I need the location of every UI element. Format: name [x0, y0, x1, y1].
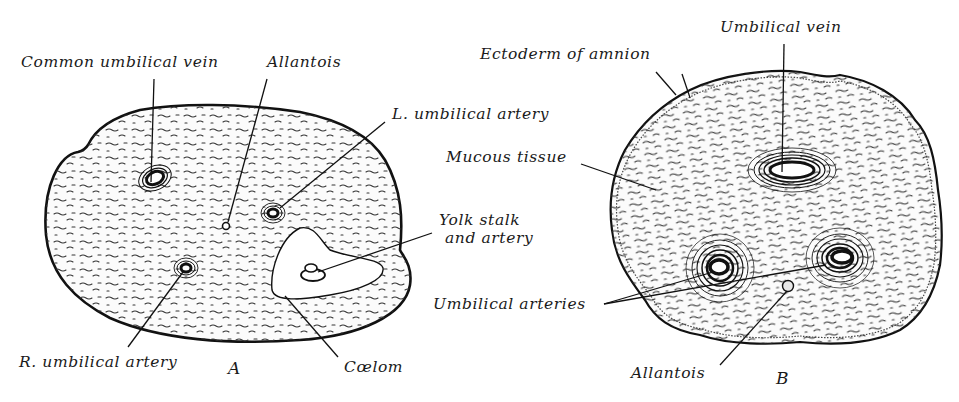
label-common-umbilical-vein: Common umbilical vein [21, 55, 219, 71]
panel-b-section [581, 44, 942, 365]
label-ectoderm-of-amnion: Ectoderm of amnion [480, 47, 651, 63]
label-yolk-stalk-line1: Yolk stalk [439, 212, 533, 230]
panel-letter-a: A [228, 360, 240, 377]
umbilical-cord-cross-section-figure: Common umbilical vein Allantois L. umbil… [0, 0, 959, 402]
label-yolk-stalk: Yolk stalk and artery [439, 212, 533, 248]
allantois-b [783, 281, 794, 292]
label-l-umbilical-artery: L. umbilical artery [392, 107, 549, 123]
label-mucous-tissue: Mucous tissue [446, 150, 567, 166]
label-r-umbilical-artery: R. umbilical artery [19, 355, 177, 371]
allantois-a [223, 223, 230, 230]
label-allantois-a: Allantois [267, 55, 341, 71]
label-umbilical-vein: Umbilical vein [720, 20, 842, 36]
label-allantois-b: Allantois [631, 366, 705, 382]
panel-letter-b: B [776, 370, 789, 387]
panel-a-section [45, 79, 432, 357]
label-coelom: Cœlom [344, 360, 403, 376]
label-yolk-stalk-line2: and artery [439, 230, 533, 248]
label-umbilical-arteries: Umbilical arteries [433, 297, 586, 313]
